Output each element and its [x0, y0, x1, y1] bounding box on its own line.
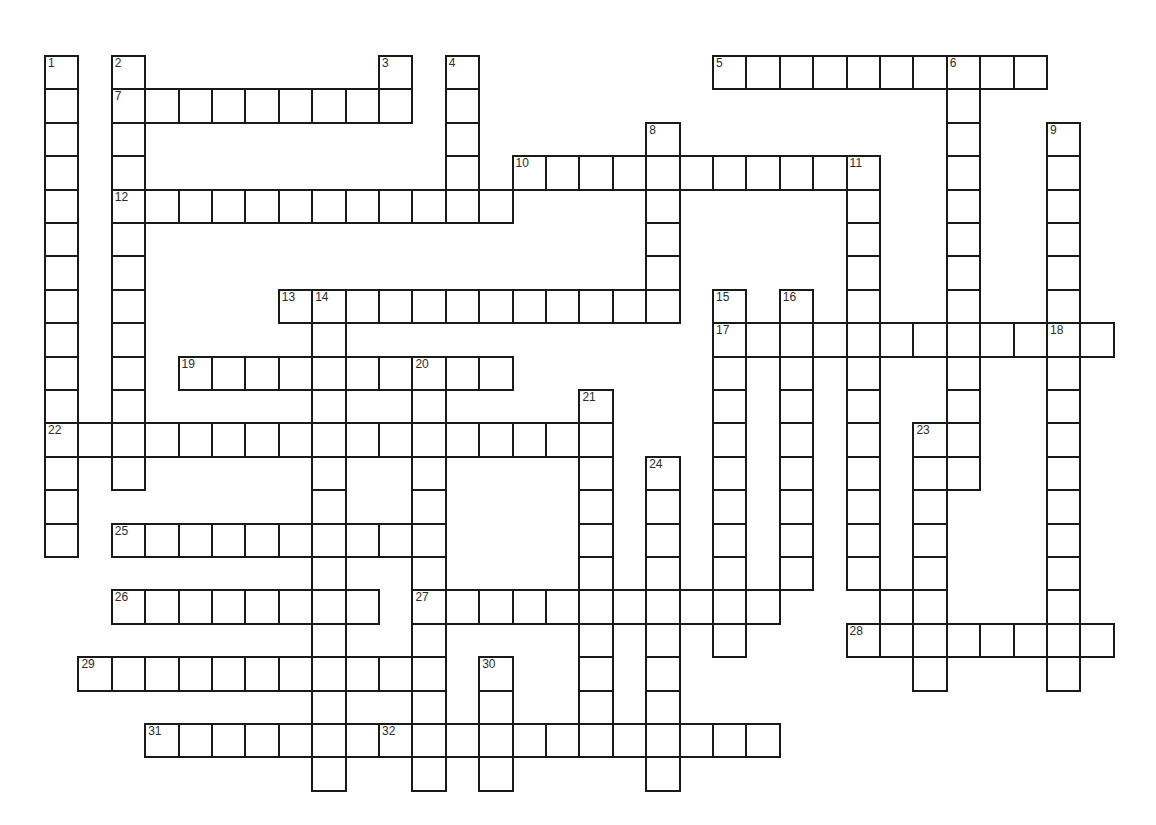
crossword-cell[interactable]	[211, 422, 246, 457]
crossword-cell[interactable]	[144, 422, 179, 457]
crossword-cell[interactable]	[311, 723, 346, 758]
crossword-cell[interactable]	[345, 523, 380, 558]
crossword-cell[interactable]	[578, 690, 613, 725]
crossword-cell[interactable]	[44, 356, 79, 391]
crossword-cell[interactable]	[812, 322, 847, 357]
crossword-cell[interactable]	[1046, 623, 1081, 658]
crossword-cell[interactable]	[445, 88, 480, 123]
crossword-cell[interactable]	[1046, 589, 1081, 624]
crossword-cell[interactable]	[378, 656, 413, 691]
crossword-cell[interactable]	[645, 756, 680, 791]
crossword-cell[interactable]	[1079, 322, 1114, 357]
crossword-cell[interactable]	[411, 523, 446, 558]
crossword-cell[interactable]	[411, 756, 446, 791]
crossword-cell[interactable]	[1013, 55, 1048, 90]
crossword-cell[interactable]	[345, 422, 380, 457]
crossword-cell[interactable]	[846, 255, 881, 290]
crossword-cell[interactable]	[278, 656, 313, 691]
crossword-cell[interactable]	[44, 88, 79, 123]
crossword-cell[interactable]	[846, 456, 881, 491]
crossword-cell[interactable]	[946, 155, 981, 190]
crossword-cell[interactable]	[445, 723, 480, 758]
crossword-cell[interactable]	[278, 356, 313, 391]
crossword-cell[interactable]	[779, 356, 814, 391]
crossword-cell[interactable]	[679, 155, 714, 190]
crossword-cell[interactable]	[445, 356, 480, 391]
crossword-cell[interactable]	[244, 189, 279, 224]
crossword-cell[interactable]	[912, 322, 947, 357]
crossword-cell[interactable]	[712, 523, 747, 558]
crossword-cell[interactable]	[178, 656, 213, 691]
crossword-cell[interactable]	[578, 589, 613, 624]
crossword-cell[interactable]	[144, 589, 179, 624]
crossword-cell[interactable]	[144, 523, 179, 558]
crossword-cell[interactable]	[1046, 255, 1081, 290]
crossword-cell[interactable]	[545, 155, 580, 190]
crossword-cell[interactable]	[745, 589, 780, 624]
crossword-cell[interactable]	[578, 556, 613, 591]
crossword-cell[interactable]	[478, 289, 513, 324]
crossword-cell[interactable]	[345, 589, 380, 624]
crossword-cell[interactable]	[345, 656, 380, 691]
crossword-cell[interactable]	[745, 723, 780, 758]
crossword-cell[interactable]	[1079, 623, 1114, 658]
crossword-cell[interactable]	[1046, 155, 1081, 190]
crossword-cell[interactable]	[211, 589, 246, 624]
crossword-cell[interactable]	[445, 589, 480, 624]
crossword-cell[interactable]	[411, 556, 446, 591]
crossword-cell[interactable]	[378, 189, 413, 224]
crossword-cell[interactable]	[311, 589, 346, 624]
crossword-cell[interactable]	[44, 523, 79, 558]
crossword-cell[interactable]	[1046, 556, 1081, 591]
crossword-cell[interactable]	[612, 723, 647, 758]
crossword-cell[interactable]	[311, 356, 346, 391]
crossword-cell[interactable]	[311, 422, 346, 457]
crossword-cell[interactable]	[712, 422, 747, 457]
crossword-cell[interactable]	[445, 189, 480, 224]
crossword-cell[interactable]	[879, 589, 914, 624]
crossword-cell[interactable]	[946, 322, 981, 357]
crossword-cell-numbered[interactable]: 6	[946, 55, 981, 90]
crossword-cell[interactable]	[278, 523, 313, 558]
crossword-cell[interactable]	[1046, 489, 1081, 524]
crossword-cell[interactable]	[979, 623, 1014, 658]
crossword-cell[interactable]	[278, 589, 313, 624]
crossword-cell-numbered[interactable]: 7	[111, 88, 146, 123]
crossword-cell[interactable]	[44, 255, 79, 290]
crossword-cell[interactable]	[779, 155, 814, 190]
crossword-cell[interactable]	[345, 356, 380, 391]
crossword-cell[interactable]	[1046, 523, 1081, 558]
crossword-cell[interactable]	[244, 589, 279, 624]
crossword-cell-numbered[interactable]: 21	[578, 389, 613, 424]
crossword-cell-numbered[interactable]: 22	[44, 422, 79, 457]
crossword-cell[interactable]	[445, 155, 480, 190]
crossword-cell-numbered[interactable]: 10	[512, 155, 547, 190]
crossword-cell[interactable]	[111, 456, 146, 491]
crossword-cell[interactable]	[311, 456, 346, 491]
crossword-cell[interactable]	[411, 623, 446, 658]
crossword-cell[interactable]	[645, 523, 680, 558]
crossword-cell[interactable]	[846, 356, 881, 391]
crossword-cell[interactable]	[612, 589, 647, 624]
crossword-cell[interactable]	[545, 289, 580, 324]
crossword-cell[interactable]	[445, 289, 480, 324]
crossword-cell-numbered[interactable]: 15	[712, 289, 747, 324]
crossword-cell[interactable]	[478, 589, 513, 624]
crossword-cell[interactable]	[912, 589, 947, 624]
crossword-cell[interactable]	[411, 189, 446, 224]
crossword-cell[interactable]	[846, 556, 881, 591]
crossword-cell[interactable]	[144, 88, 179, 123]
crossword-cell[interactable]	[44, 155, 79, 190]
crossword-cell[interactable]	[979, 322, 1014, 357]
crossword-cell[interactable]	[645, 556, 680, 591]
crossword-cell[interactable]	[779, 389, 814, 424]
crossword-cell[interactable]	[846, 389, 881, 424]
crossword-cell[interactable]	[111, 422, 146, 457]
crossword-cell[interactable]	[779, 489, 814, 524]
crossword-cell[interactable]	[44, 389, 79, 424]
crossword-cell[interactable]	[478, 356, 513, 391]
crossword-cell[interactable]	[244, 723, 279, 758]
crossword-cell[interactable]	[411, 456, 446, 491]
crossword-cell-numbered[interactable]: 18	[1046, 322, 1081, 357]
crossword-cell[interactable]	[178, 589, 213, 624]
